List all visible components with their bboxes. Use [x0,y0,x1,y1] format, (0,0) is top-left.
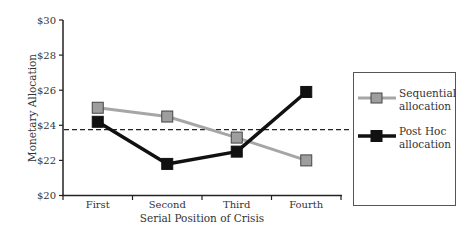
x-tick-label: Third [223,199,251,210]
data-point-marker [162,158,173,169]
gray-square-marker-icon [358,92,396,104]
legend-item-sequential: Sequentialallocation [354,87,455,127]
y-axis-title: Monetary Allocation [26,54,38,162]
y-tick-label: $24 [37,120,56,131]
data-point-marker [231,132,242,143]
x-tick-label: First [86,199,110,210]
legend-item-post-hoc: Post Hocallocation [354,125,455,165]
y-tick-label: $20 [37,190,56,201]
x-axis: FirstSecondThirdFourth [62,196,342,211]
y-axis: $20$22$24$26$28$30 [37,15,63,202]
y-tick-label: $30 [37,15,56,26]
data-point-marker [301,155,312,166]
data-point-marker [92,116,103,127]
legend: Sequentialallocation Post Hocallocation [353,72,456,206]
data-point-marker [92,102,103,113]
x-axis-title: Serial Position of Crisis [140,212,265,224]
y-tick-label: $26 [37,85,56,96]
series-layer [92,86,312,169]
legend-label: Sequentialallocation [399,87,458,112]
data-point-marker [231,146,242,157]
black-square-marker-icon [358,130,396,142]
y-tick-label: $22 [37,155,56,166]
data-point-marker [301,86,312,97]
x-tick-label: Fourth [289,199,324,210]
x-tick-label: Second [149,199,187,210]
legend-label: Post Hocallocation [399,125,458,150]
y-tick-label: $28 [37,50,56,61]
data-point-marker [162,111,173,122]
